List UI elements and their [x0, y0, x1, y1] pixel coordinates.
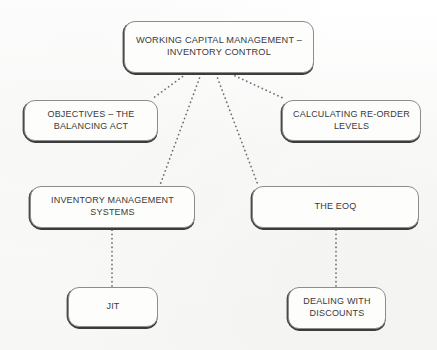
node-label: CALCULATING RE-ORDER LEVELS [288, 109, 415, 132]
node-label: OBJECTIVES – THE BALANCING ACT [42, 109, 139, 132]
node-the-eoq[interactable]: THE EOQ [252, 186, 419, 228]
node-inventory-management-systems[interactable]: INVENTORY MANAGEMENT SYSTEMS [30, 186, 195, 228]
node-label: THE EOQ [310, 201, 362, 213]
node-dealing-with-discounts[interactable]: DEALING WITH DISCOUNTS [288, 287, 386, 329]
connector-root-to-objectives [152, 74, 186, 99]
node-calculating-re-order-levels[interactable]: CALCULATING RE-ORDER LEVELS [282, 100, 421, 141]
node-jit[interactable]: JIT [68, 287, 158, 327]
node-label: JIT [101, 301, 124, 313]
connector-root-to-eoq [216, 74, 258, 185]
node-working-capital-management-inventory-control[interactable]: WORKING CAPITAL MANAGEMENT – INVENTORY C… [124, 21, 314, 73]
node-objectives-the-balancing-act[interactable]: OBJECTIVES – THE BALANCING ACT [24, 100, 158, 141]
connector-root-to-reorder [231, 74, 285, 99]
connector-root-to-inventory-systems [160, 74, 201, 185]
node-label: DEALING WITH DISCOUNTS [298, 296, 375, 319]
node-label: WORKING CAPITAL MANAGEMENT – INVENTORY C… [131, 35, 307, 59]
diagram-canvas: WORKING CAPITAL MANAGEMENT – INVENTORY C… [0, 0, 437, 350]
node-label: INVENTORY MANAGEMENT SYSTEMS [46, 195, 179, 218]
